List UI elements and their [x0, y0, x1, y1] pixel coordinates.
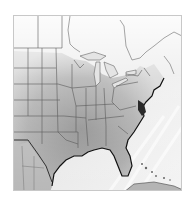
north-fade — [14, 16, 182, 191]
map-frame — [13, 15, 182, 191]
eastern-us-map — [14, 16, 182, 191]
